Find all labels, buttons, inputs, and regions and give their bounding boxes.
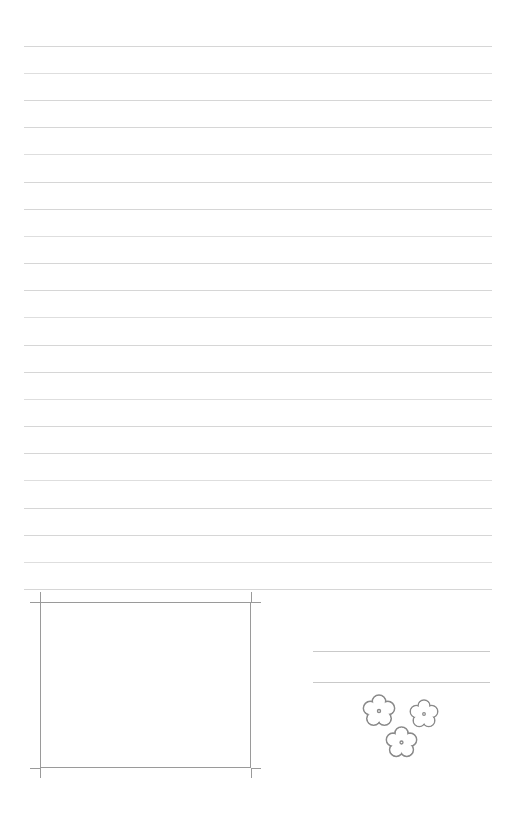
tick-bottom-right-horizontal xyxy=(251,768,261,769)
ruled-line xyxy=(24,345,492,346)
ruled-line xyxy=(24,100,492,101)
ruled-line xyxy=(24,480,492,481)
ruled-line xyxy=(24,317,492,318)
tick-top-right-horizontal xyxy=(251,602,261,603)
ruled-line xyxy=(24,236,492,237)
tick-bottom-left-vertical xyxy=(40,768,41,778)
tick-bottom-left-horizontal xyxy=(30,768,40,769)
ruled-line xyxy=(24,426,492,427)
side-ruled-line xyxy=(313,651,490,652)
ruled-line xyxy=(24,209,492,210)
drawing-box[interactable] xyxy=(40,602,251,768)
ruled-line xyxy=(24,535,492,536)
tick-bottom-right-vertical xyxy=(251,768,252,778)
ruled-line xyxy=(24,562,492,563)
ruled-line xyxy=(24,372,492,373)
tick-top-right-vertical xyxy=(251,592,252,602)
ruled-line xyxy=(24,127,492,128)
ruled-line xyxy=(24,508,492,509)
side-ruled-line xyxy=(313,682,490,683)
ruled-line xyxy=(24,399,492,400)
ruled-line xyxy=(24,73,492,74)
ruled-line xyxy=(24,290,492,291)
flower-icon xyxy=(409,699,439,729)
flower-icon xyxy=(362,694,396,728)
ruled-line xyxy=(24,453,492,454)
flower-icon xyxy=(385,726,418,759)
ruled-line xyxy=(24,182,492,183)
ruled-line xyxy=(24,46,492,47)
ruled-line xyxy=(24,263,492,264)
tick-top-left-vertical xyxy=(40,592,41,602)
tick-top-left-horizontal xyxy=(30,602,40,603)
notebook-page xyxy=(0,0,517,814)
ruled-line xyxy=(24,589,492,590)
ruled-line xyxy=(24,154,492,155)
